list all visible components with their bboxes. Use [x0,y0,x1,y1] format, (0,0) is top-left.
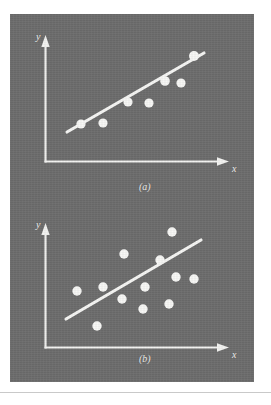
plot-a-data-point [176,78,185,87]
plot-b-data-point [119,249,128,258]
scatter-plot-b [10,208,254,368]
plot-b-y-axis-label: y [36,220,40,230]
figure-gray-panel: y x (a) y x [10,14,254,382]
plot-a-x-axis-arrow-icon [217,157,229,165]
plot-a-regression-line [67,53,204,132]
plot-b-data-point [117,294,126,303]
plot-a-data-point [76,119,85,128]
plot-b-caption: (b) [139,354,151,364]
plot-a-data-point [144,98,153,107]
plot-b-data-point [98,282,107,291]
plot-b-data-point [164,299,173,308]
plot-b-x-axis-arrow-icon [217,343,229,351]
plot-a-data-point [123,97,132,106]
plot-a-y-axis-label: y [36,32,40,42]
plot-b-data-point [155,255,164,264]
plot-a-y-axis-arrow-icon [41,35,49,47]
plot-b-data-point [167,227,176,236]
plot-a-x-axis-label: x [232,164,236,174]
plot-a-data-point [189,51,199,61]
plot-b-x-axis-label: x [232,350,236,360]
scatter-plot-a [10,14,254,194]
plot-a-data-point [160,76,170,86]
page-bottom-rule [0,392,271,393]
plot-b-data-point [189,274,198,283]
plot-b-data-point [92,321,101,330]
plot-b-regression-line [66,240,201,319]
plot-b-data-point [72,286,81,295]
plot-a-data-point [98,118,107,127]
plot-b-data-point [140,282,149,291]
plot-b-data-point [171,272,180,281]
plot-a-caption: (a) [139,182,151,192]
plot-b-y-axis-arrow-icon [41,223,49,235]
plot-b-data-point [138,304,147,313]
figure-root: y x (a) y x [0,0,271,405]
